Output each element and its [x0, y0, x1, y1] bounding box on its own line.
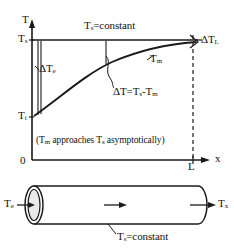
pipe-inlet-temperature-label: Te — [4, 198, 14, 210]
Tm-base: T — [150, 52, 157, 64]
delta-Te-base: ΔT — [39, 62, 53, 74]
delta-TL-subscript: L — [215, 38, 219, 46]
delta-Te-subscript: e — [53, 67, 56, 75]
pipe-wall-base: T — [117, 230, 124, 242]
mean-temperature-curve — [34, 42, 196, 116]
middle-flow-arrowhead — [119, 202, 127, 208]
note-close: asymptotically) — [105, 135, 165, 145]
pipe-inlet-base: T — [4, 197, 11, 209]
y-axis-inlet-temperature-label: Ti — [18, 110, 26, 122]
note-mid: approaches T — [50, 135, 102, 145]
delta-def-a: ΔT=T — [113, 85, 139, 97]
delta-def-b: -T — [142, 85, 152, 97]
note-open: (T — [36, 135, 45, 145]
wall-temperature-leader — [108, 224, 116, 234]
y-axis-Ts-base: T — [18, 32, 25, 44]
outlet-flow-arrowhead — [208, 202, 216, 208]
heat-transfer-figure: T Ts Ti Ts=constant ΔTe ΔTL Tm ΔT=Ts-Tm … — [0, 0, 234, 248]
x-axis-length-label: L — [188, 161, 195, 172]
x-axis-arrowhead — [201, 157, 210, 163]
pipe-outlet-temperature-label: Tx — [218, 198, 228, 210]
pipe-outlet-subscript: x — [225, 202, 228, 210]
pipe-outlet-base: T — [218, 197, 225, 209]
surface-temperature-constant-label: Ts=constant — [84, 20, 135, 32]
surface-constant-rest: =constant — [93, 19, 135, 31]
y-axis-Ti-subscript: i — [25, 114, 27, 122]
pipe-inlet-subscript: e — [11, 202, 14, 210]
delta-temperature-definition: ΔT=Ts-Tm — [113, 86, 158, 98]
y-axis-Ts-subscript: s — [25, 37, 28, 45]
y-axis-arrowhead — [29, 19, 35, 28]
delta-def-sub-b: m — [152, 90, 157, 98]
y-axis-surface-temperature-label: Ts — [18, 33, 27, 45]
delta-entrance-temperature-label: ΔTe — [39, 63, 56, 75]
origin-label: 0 — [20, 155, 25, 166]
surface-constant-T: T — [84, 19, 91, 31]
asymptotic-note: (Tm approaches Ts asymptotically) — [36, 136, 164, 146]
y-axis-Ti-base: T — [18, 109, 25, 121]
delta-exit-temperature-label: ΔTL — [201, 34, 219, 46]
Tm-subscript: m — [157, 57, 162, 65]
pipe-wall-rest: =constant — [126, 230, 168, 242]
x-axis-label: x — [215, 153, 220, 164]
y-axis-label: T — [22, 14, 29, 25]
pipe-wall-temperature-label: Ts=constant — [117, 231, 168, 243]
pipe-diagram-group — [17, 186, 216, 234]
mean-temperature-curve-label: Tm — [150, 53, 162, 65]
figure-vector-canvas — [0, 0, 234, 248]
delta-TL-base: ΔT — [201, 33, 215, 45]
